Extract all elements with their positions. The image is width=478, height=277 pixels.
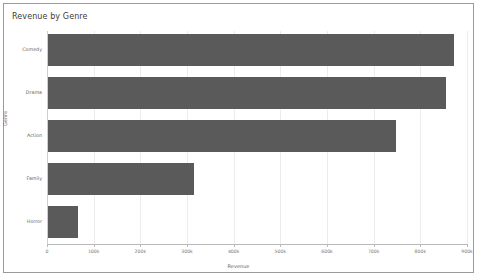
- bar-drama[interactable]: [47, 77, 446, 109]
- x-axis-tick: [47, 244, 48, 247]
- x-axis-tick-label: 100k: [88, 249, 99, 254]
- gridline: [467, 31, 468, 244]
- x-axis-tick: [374, 244, 375, 247]
- y-axis-title: Genre: [2, 111, 8, 126]
- page-title: Revenue by Genre: [12, 12, 88, 21]
- x-axis-tick: [94, 244, 95, 247]
- x-axis-title: Revenue: [4, 263, 473, 269]
- x-axis-tick-label: 900k: [461, 249, 472, 254]
- y-axis-tick-label-horror: Horror: [6, 219, 42, 224]
- y-axis-tick-label-family: Family: [6, 176, 42, 181]
- x-axis-tick: [280, 244, 281, 247]
- x-axis-tick: [420, 244, 421, 247]
- y-axis-tick-label-action: Action: [6, 133, 42, 138]
- chart-panel: Revenue by Genre Genre Revenue 0100k200k…: [3, 3, 474, 273]
- bar-horror[interactable]: [47, 206, 78, 238]
- x-axis-tick: [467, 244, 468, 247]
- x-axis-tick-label: 300k: [181, 249, 192, 254]
- x-axis-tick: [187, 244, 188, 247]
- y-axis-tick-label-comedy: Comedy: [6, 47, 42, 52]
- x-axis-tick: [140, 244, 141, 247]
- x-axis-tick-label: 700k: [368, 249, 379, 254]
- x-axis-line: [47, 244, 468, 245]
- x-axis-tick-label: 0: [46, 249, 49, 254]
- x-axis-tick-label: 500k: [275, 249, 286, 254]
- x-axis-tick-label: 800k: [415, 249, 426, 254]
- x-axis-tick-label: 200k: [135, 249, 146, 254]
- y-axis-tick-label-drama: Drama: [6, 90, 42, 95]
- plot-area: [47, 31, 467, 244]
- x-axis-tick: [234, 244, 235, 247]
- x-axis-tick-label: 600k: [321, 249, 332, 254]
- x-axis-tick-label: 400k: [228, 249, 239, 254]
- bar-action[interactable]: [47, 120, 396, 152]
- bar-comedy[interactable]: [47, 34, 454, 66]
- x-axis-tick: [327, 244, 328, 247]
- bar-family[interactable]: [47, 163, 194, 195]
- y-axis-line: [47, 31, 48, 244]
